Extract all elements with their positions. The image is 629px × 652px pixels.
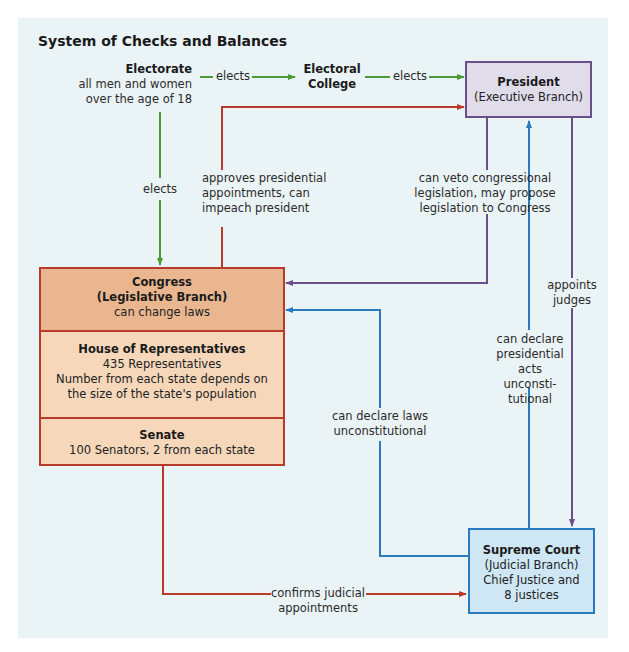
supreme-court-desc-line1: Chief Justice and bbox=[470, 573, 593, 588]
house-desc-line2: the size of the state's population bbox=[41, 387, 283, 402]
senate-section: Senate 100 Senators, 2 from each state bbox=[41, 419, 283, 458]
senate-name: Senate bbox=[41, 428, 283, 443]
label-court-to-president: can declare presidential acts unconsti- … bbox=[490, 332, 570, 407]
label-line: can declare bbox=[490, 332, 570, 347]
label-line: acts unconsti- bbox=[490, 362, 570, 392]
label-line: appointments, can bbox=[202, 186, 362, 201]
label-line: presidential bbox=[490, 347, 570, 362]
node-electorate: Electorate all men and women over the ag… bbox=[32, 62, 192, 107]
supreme-court-name: Supreme Court bbox=[470, 543, 593, 558]
president-branch: (Executive Branch) bbox=[467, 90, 590, 105]
node-supreme-court: Supreme Court (Judicial Branch) Chief Ju… bbox=[468, 528, 595, 614]
label-electorate-elects-college: elects bbox=[213, 69, 253, 84]
label-line: impeach president bbox=[202, 201, 362, 216]
label-line: confirms judicial bbox=[268, 586, 368, 601]
node-electoral-college: Electoral College bbox=[300, 62, 364, 92]
label-line: appointments bbox=[268, 601, 368, 616]
congress-desc: can change laws bbox=[41, 305, 283, 320]
label-president-to-court: appoints judges bbox=[542, 278, 602, 308]
label-line: appoints bbox=[542, 278, 602, 293]
supreme-court-desc-line2: 8 justices bbox=[470, 588, 593, 603]
label-senate-to-court: confirms judicial appointments bbox=[268, 586, 368, 616]
electoral-college-line1: Electoral bbox=[300, 62, 364, 77]
house-section: House of Representatives 435 Representat… bbox=[41, 332, 283, 419]
senate-desc: 100 Senators, 2 from each state bbox=[41, 443, 283, 458]
label-college-elects-president: elects bbox=[390, 69, 430, 84]
node-president: President (Executive Branch) bbox=[465, 61, 592, 118]
diagram-title: System of Checks and Balances bbox=[38, 33, 287, 49]
label-line: legislation to Congress bbox=[405, 201, 565, 216]
congress-branch: (Legislative Branch) bbox=[41, 290, 283, 305]
electoral-college-line2: College bbox=[300, 77, 364, 92]
node-congress: Congress (Legislative Branch) can change… bbox=[39, 267, 285, 466]
house-count: 435 Representatives bbox=[41, 357, 283, 372]
label-line: tutional bbox=[490, 392, 570, 407]
house-name: House of Representatives bbox=[41, 342, 283, 357]
electorate-desc-line1: all men and women bbox=[32, 77, 192, 92]
label-line: legislation, may propose bbox=[405, 186, 565, 201]
electorate-desc-line2: over the age of 18 bbox=[32, 92, 192, 107]
label-line: can declare laws bbox=[325, 409, 435, 424]
arrow-senate-to-court bbox=[163, 465, 466, 594]
label-line: unconstitutional bbox=[325, 424, 435, 439]
congress-name: Congress bbox=[41, 275, 283, 290]
supreme-court-branch: (Judicial Branch) bbox=[470, 558, 593, 573]
house-desc-line1: Number from each state depends on bbox=[41, 372, 283, 387]
label-line: approves presidential bbox=[202, 171, 362, 186]
label-congress-to-president: approves presidential appointments, can … bbox=[202, 171, 362, 216]
label-electorate-elects-congress: elects bbox=[138, 182, 182, 197]
congress-header: Congress (Legislative Branch) can change… bbox=[41, 269, 283, 332]
president-name: President bbox=[467, 75, 590, 90]
label-line: can veto congressional bbox=[405, 171, 565, 186]
electorate-name: Electorate bbox=[32, 62, 192, 77]
label-court-to-congress: can declare laws unconstitutional bbox=[325, 409, 435, 439]
label-president-to-congress: can veto congressional legislation, may … bbox=[405, 171, 565, 216]
label-line: judges bbox=[542, 293, 602, 308]
